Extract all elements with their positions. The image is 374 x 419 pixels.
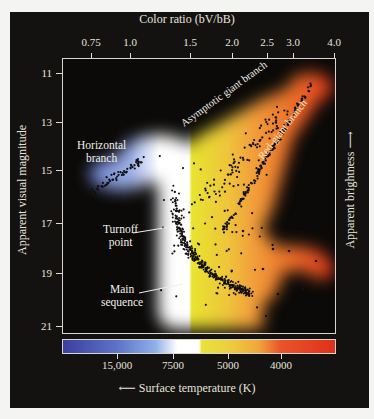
bottom-tick-label: 15,000 <box>102 359 132 371</box>
top-tick-label: 2.0 <box>225 36 239 48</box>
right-axis-title: Apparent brightness ⟶ <box>343 131 358 248</box>
top-tick-label: 4.0 <box>327 36 341 48</box>
top-tick-label: 2.5 <box>260 36 274 48</box>
top-tick-label: 0.75 <box>81 36 100 48</box>
bottom-axis-title: ⟵ Surface temperature (K) <box>0 381 374 396</box>
left-axis-title: Apparent visual magnitude <box>15 125 30 255</box>
top-tick-label: 3.0 <box>286 36 300 48</box>
bottom-tick-label: 4000 <box>270 359 292 371</box>
temperature-color-bar <box>62 339 336 354</box>
bottom-tick-mark <box>173 354 174 359</box>
annotation-main-sequence: Mainsequence <box>101 283 143 309</box>
bottom-tick-label: 7500 <box>162 359 184 371</box>
left-tick-label: 17 <box>28 217 52 229</box>
plot-area: Horizontalbranch Asymptotic giant branch… <box>62 58 336 334</box>
bottom-tick-mark <box>281 354 282 359</box>
top-axis-title: Color ratio (bV/bB) <box>0 12 374 27</box>
left-tick-label: 13 <box>28 116 52 128</box>
left-tick-label: 15 <box>28 164 52 176</box>
top-tick-label: 1.5 <box>183 36 197 48</box>
annotation-horizontal-branch: Horizontalbranch <box>77 139 126 165</box>
left-tick-label: 19 <box>28 267 52 279</box>
bottom-tick-mark <box>228 354 229 359</box>
left-tick-label: 11 <box>28 67 52 79</box>
bottom-tick-mark <box>117 354 118 359</box>
bottom-tick-label: 5000 <box>217 359 239 371</box>
top-tick-label: 1.0 <box>123 36 137 48</box>
annotation-turnoff-point: Turnoffpoint <box>103 223 138 249</box>
left-tick-label: 21 <box>28 320 52 332</box>
